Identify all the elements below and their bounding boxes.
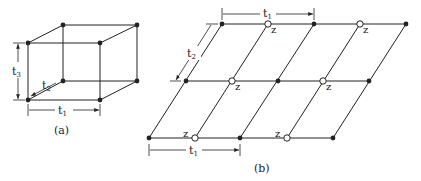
lattice-node	[367, 79, 372, 84]
z-label: z	[235, 81, 240, 92]
lattice-node	[312, 22, 317, 27]
cube-vertex	[135, 79, 140, 84]
cube-edge	[100, 81, 137, 100]
t2-label-a: t2	[42, 79, 51, 93]
lattice-node	[220, 22, 225, 27]
cube-vertex	[26, 98, 31, 103]
z-label: z	[275, 128, 280, 139]
lattice-node	[331, 136, 336, 141]
cube-vertex	[98, 98, 103, 103]
lattice-nodes	[147, 21, 409, 141]
cube-edge	[100, 25, 137, 43]
z-label: z	[271, 24, 276, 35]
lattice-node	[238, 136, 243, 141]
lattice-node	[184, 79, 189, 84]
lattice-z-site	[284, 135, 290, 141]
cube-vertex	[135, 23, 140, 28]
cube-edge	[28, 25, 63, 43]
lattice-z-site	[192, 135, 198, 141]
cube-vertex	[61, 23, 66, 28]
caption-b: (b)	[254, 162, 270, 175]
caption-a: (a)	[54, 124, 69, 137]
lattice-node	[147, 136, 152, 141]
z-label: z	[326, 81, 331, 92]
cube-vertex	[61, 79, 66, 84]
diagram-canvas: t1 t3 t2 (a) t1 t2 t1	[0, 0, 421, 181]
lattice-node	[276, 79, 281, 84]
lattice-node	[404, 22, 409, 27]
cube-vertex	[26, 41, 31, 46]
z-label: z	[363, 24, 368, 35]
z-label: z	[183, 128, 188, 139]
lattice-figure: t1 t3 t2 (a) t1 t2 t1	[0, 0, 421, 181]
cube-vertex	[98, 41, 103, 46]
